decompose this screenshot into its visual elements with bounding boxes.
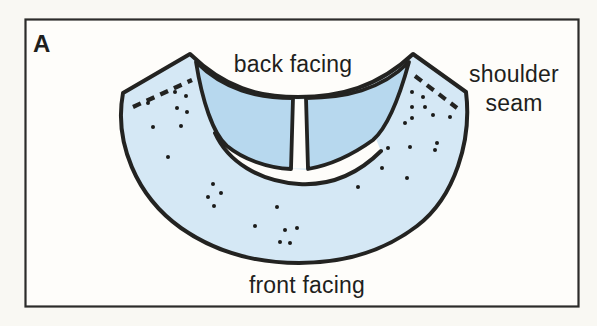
pattern-dot [146, 101, 150, 105]
pattern-dot [253, 224, 257, 228]
pattern-dot [403, 121, 407, 125]
front-facing-label: front facing [249, 272, 365, 298]
pattern-dot [410, 90, 414, 94]
pattern-dot [283, 228, 287, 232]
pattern-dot [184, 94, 188, 98]
pattern-dot [278, 240, 282, 244]
pattern-dot [386, 146, 390, 150]
pattern-dot [166, 155, 170, 159]
pattern-dot [408, 145, 412, 149]
pattern-dot [275, 205, 279, 209]
panel-letter: A [33, 30, 50, 57]
pattern-dot [151, 125, 155, 129]
pattern-dot [421, 95, 425, 99]
shoulder-seam-label-line2: seam [485, 90, 542, 116]
pattern-dot [206, 195, 210, 199]
pattern-dot [448, 115, 452, 119]
pattern-dot [179, 124, 183, 128]
pattern-dot [212, 204, 216, 208]
facing-diagram: A back facing shoulder seam front facing [0, 0, 597, 326]
pattern-dot [380, 166, 384, 170]
pattern-dot [185, 110, 189, 114]
pattern-dot [288, 241, 292, 245]
pattern-dot [175, 106, 179, 110]
pattern-dot [433, 148, 437, 152]
pattern-dot [219, 191, 223, 195]
pattern-dot [435, 141, 439, 145]
pattern-dot [295, 226, 299, 230]
pattern-dot [173, 90, 177, 94]
back-facing-label: back facing [234, 51, 353, 77]
pattern-dot [431, 113, 435, 117]
pattern-dot [211, 182, 215, 186]
center-back-gap [293, 100, 307, 169]
pattern-dot [356, 185, 360, 189]
pattern-dot [410, 116, 414, 120]
pattern-dot [405, 176, 409, 180]
shoulder-seam-label-line1: shoulder [469, 61, 559, 87]
pattern-dot [410, 105, 414, 109]
pattern-dot [423, 105, 427, 109]
